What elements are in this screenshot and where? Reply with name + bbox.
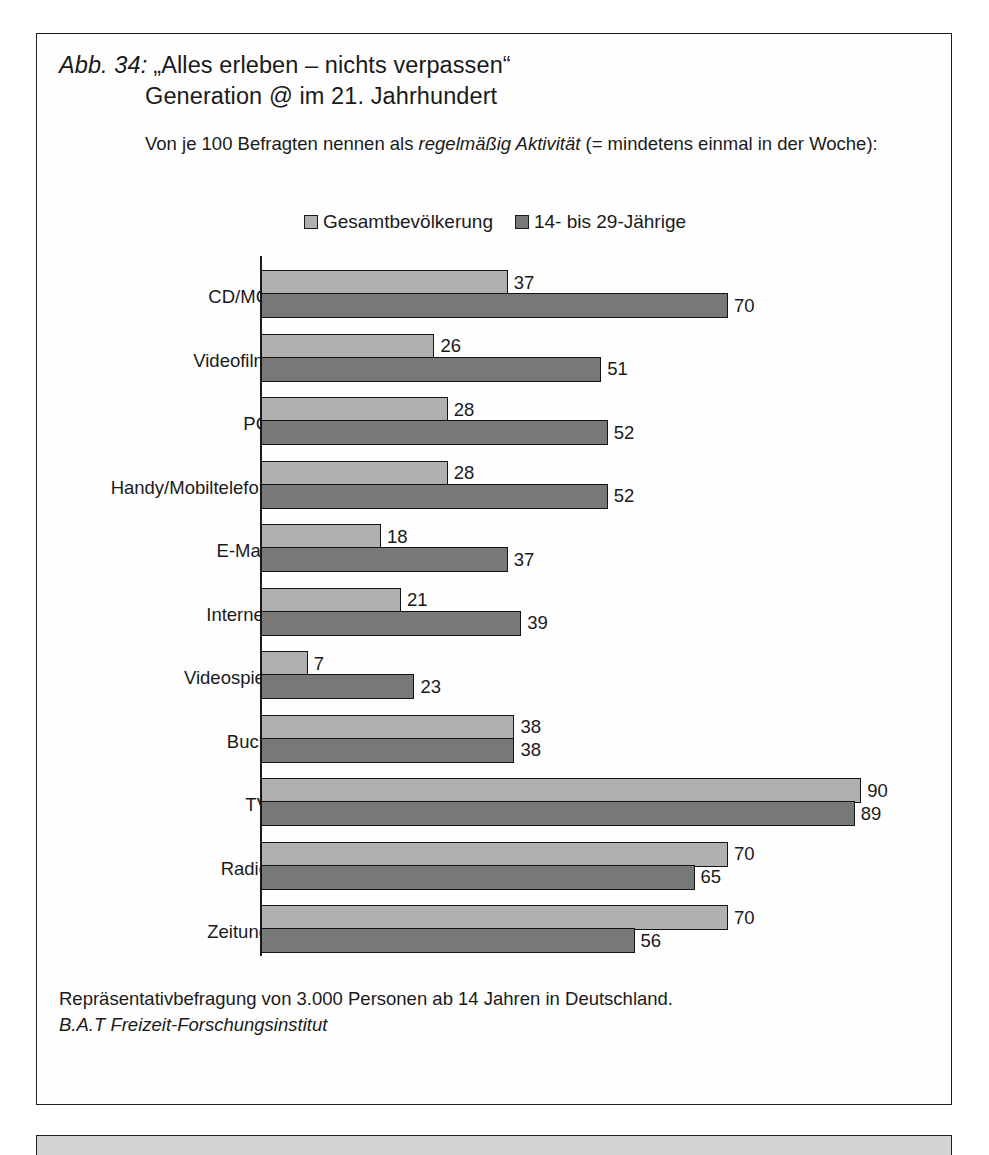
bar-pair: 2139 xyxy=(261,588,521,636)
lower-partial-panel xyxy=(36,1135,952,1155)
bar-gesamtbevoelkerung: 28 xyxy=(261,397,448,422)
bar-pair: 9089 xyxy=(261,778,861,826)
figure-number: Abb. 34: xyxy=(59,52,147,78)
bar-jugendliche: 52 xyxy=(261,420,608,445)
bar-jugendliche: 39 xyxy=(261,611,521,636)
figure-title-text-1: „Alles erleben – nichts verpassen“ xyxy=(153,52,510,78)
bar-gesamtbevoelkerung: 7 xyxy=(261,651,308,676)
figure-footnote: Repräsentativbefragung von 3.000 Persone… xyxy=(59,986,919,1012)
subtitle-text-1: Von je 100 Befragten nennen als xyxy=(145,133,419,154)
figure-frame: Abb. 34:„Alles erleben – nichts verpasse… xyxy=(36,33,952,1105)
bar-pair: 723 xyxy=(261,651,414,699)
bar-gesamtbevoelkerung: 70 xyxy=(261,842,728,867)
bar-value-label: 70 xyxy=(734,297,755,316)
bar-pair: 3770 xyxy=(261,270,728,318)
bar-gesamtbevoelkerung: 90 xyxy=(261,778,861,803)
figure-footnote-block: Repräsentativbefragung von 3.000 Persone… xyxy=(59,986,919,1038)
bar-gesamtbevoelkerung: 18 xyxy=(261,524,381,549)
legend-swatch-icon xyxy=(304,215,318,229)
bar-gesamtbevoelkerung: 28 xyxy=(261,461,448,486)
bar-value-label: 89 xyxy=(861,805,882,824)
chart-legend: Gesamtbevölkerung 14- bis 29-Jährige xyxy=(37,211,953,233)
category-label: Zeitung xyxy=(207,923,269,942)
bar-pair: 1837 xyxy=(261,524,508,572)
bar-pair: 3838 xyxy=(261,715,514,763)
bar-pair: 7056 xyxy=(261,905,728,953)
bar-value-label: 56 xyxy=(641,932,662,951)
bar-value-label: 7 xyxy=(314,654,324,673)
bar-value-label: 23 xyxy=(420,678,441,697)
bar-value-label: 18 xyxy=(387,527,408,546)
bar-value-label: 21 xyxy=(407,591,428,610)
bar-value-label: 37 xyxy=(514,273,535,292)
category-label: Internet xyxy=(206,606,269,625)
bar-value-label: 39 xyxy=(527,614,548,633)
bar-pair: 2651 xyxy=(261,334,601,382)
category-label: Videofilm xyxy=(193,352,269,371)
bar-gesamtbevoelkerung: 26 xyxy=(261,334,434,359)
bar-value-label: 65 xyxy=(701,868,722,887)
figure-subtitle: Von je 100 Befragten nennen als regelmäß… xyxy=(145,131,925,157)
category-label: Handy/Mobiltelefon xyxy=(111,479,269,498)
chart-plot-area: CD/MC3770Videofilm2651PC2852Handy/Mobilt… xyxy=(37,256,953,956)
bar-gesamtbevoelkerung: 70 xyxy=(261,905,728,930)
bar-value-label: 37 xyxy=(514,551,535,570)
subtitle-text-2: (= mindetens einmal in der Woche): xyxy=(580,133,877,154)
legend-item-gesamtbevoelkerung: Gesamtbevölkerung xyxy=(304,211,493,233)
bar-jugendliche: 52 xyxy=(261,484,608,509)
bar-jugendliche: 51 xyxy=(261,357,601,382)
bar-value-label: 52 xyxy=(614,424,635,443)
bar-gesamtbevoelkerung: 21 xyxy=(261,588,401,613)
bar-jugendliche: 56 xyxy=(261,928,635,953)
legend-swatch-icon xyxy=(515,215,529,229)
bar-value-label: 28 xyxy=(454,400,475,419)
bar-jugendliche: 65 xyxy=(261,865,695,890)
bar-jugendliche: 70 xyxy=(261,293,728,318)
figure-title-line-2: Generation @ im 21. Jahrhundert xyxy=(59,81,919,112)
figure-title-line-1: Abb. 34:„Alles erleben – nichts verpasse… xyxy=(59,50,919,81)
bar-pair: 2852 xyxy=(261,461,608,509)
bar-gesamtbevoelkerung: 37 xyxy=(261,270,508,295)
legend-label-1: 14- bis 29-Jährige xyxy=(534,211,686,233)
legend-item-14-bis-29-jaehrige: 14- bis 29-Jährige xyxy=(515,211,686,233)
figure-title-block: Abb. 34:„Alles erleben – nichts verpasse… xyxy=(59,50,919,112)
bar-value-label: 26 xyxy=(440,337,461,356)
bar-value-label: 38 xyxy=(520,741,541,760)
bar-value-label: 51 xyxy=(607,360,628,379)
bar-pair: 2852 xyxy=(261,397,608,445)
bar-jugendliche: 89 xyxy=(261,801,855,826)
bar-jugendliche: 37 xyxy=(261,547,508,572)
category-label: Videospiel xyxy=(184,669,269,688)
bar-pair: 7065 xyxy=(261,842,728,890)
subtitle-emphasis: regelmäßig Aktivität xyxy=(419,133,581,154)
bar-value-label: 38 xyxy=(520,718,541,737)
figure-source: B.A.T Freizeit-Forschungsinstitut xyxy=(59,1012,919,1038)
bar-gesamtbevoelkerung: 38 xyxy=(261,715,514,740)
bar-value-label: 28 xyxy=(454,464,475,483)
bar-value-label: 70 xyxy=(734,908,755,927)
bar-jugendliche: 38 xyxy=(261,738,514,763)
legend-label-0: Gesamtbevölkerung xyxy=(323,211,493,233)
bar-value-label: 52 xyxy=(614,487,635,506)
bar-value-label: 90 xyxy=(867,781,888,800)
bar-value-label: 70 xyxy=(734,845,755,864)
bar-jugendliche: 23 xyxy=(261,674,414,699)
category-label: CD/MC xyxy=(208,288,269,307)
